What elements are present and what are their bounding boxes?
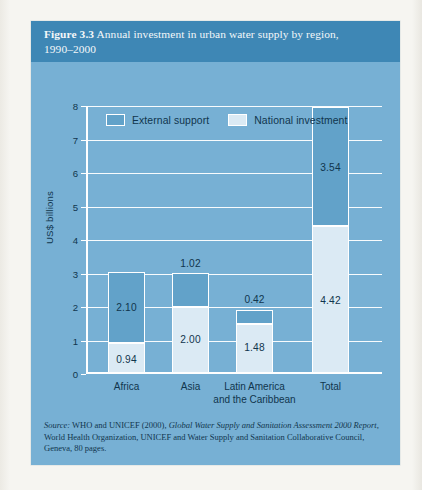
ytick-0: [81, 374, 86, 375]
y-axis-title: US$ billions: [44, 168, 55, 268]
bar-asia[interactable]: 1.02 2.00 Asia: [172, 273, 209, 374]
ytick-label-1: 1: [73, 335, 78, 346]
bar-latin-america-external[interactable]: 0.42: [236, 310, 273, 324]
xtick-label-total: Total: [274, 381, 387, 394]
legend-swatch-external-support-icon: [106, 114, 125, 126]
xtick-label-latin-america-line2: and the Caribbean: [213, 394, 295, 405]
chart-area: US$ billions 8: [31, 62, 400, 412]
bar-total[interactable]: 3.54 4.42 Total: [312, 107, 349, 374]
plot-area: 8 7 6 5 4 3 2 1 0 2.10 0.94 A: [86, 106, 382, 374]
ytick-label-2: 2: [73, 302, 78, 313]
source-note: Source: WHO and UNICEF (2000), Global Wa…: [44, 420, 386, 455]
figure-title-line1: Annual investment in urban water supply …: [96, 28, 338, 40]
value-asia-external: 1.02: [173, 258, 208, 269]
bar-asia-national[interactable]: 2.00: [172, 307, 209, 374]
chart-legend: External support National investment: [106, 114, 347, 126]
figure-title: Figure 3.3 Annual investment in urban wa…: [44, 27, 390, 56]
legend-swatch-national-investment-icon: [228, 114, 247, 126]
ytick-label-6: 6: [73, 168, 78, 179]
figure-panel: Figure 3.3 Annual investment in urban wa…: [31, 21, 400, 465]
value-latin-america-national: 1.48: [237, 342, 272, 353]
source-prefix: Source:: [44, 420, 70, 430]
value-africa-national: 0.94: [109, 353, 144, 364]
source-text-a: WHO and UNICEF (2000),: [70, 420, 169, 430]
x-axis-line: [86, 372, 382, 374]
value-total-national: 4.42: [313, 295, 348, 306]
legend-item-external-support[interactable]: External support: [106, 114, 209, 126]
bar-total-national[interactable]: 4.42: [312, 226, 349, 374]
bar-africa-national[interactable]: 0.94: [108, 343, 145, 375]
value-total-external: 3.54: [313, 161, 348, 172]
ytick-label-5: 5: [73, 201, 78, 212]
legend-label-national-investment: National investment: [254, 115, 347, 126]
ytick-label-3: 3: [73, 268, 78, 279]
ytick-label-7: 7: [73, 134, 78, 145]
value-asia-national: 2.00: [173, 334, 208, 345]
bar-asia-external[interactable]: 1.02: [172, 273, 209, 307]
value-latin-america-external: 0.42: [223, 294, 286, 305]
ytick-label-0: 0: [73, 369, 78, 380]
y-axis-line: [86, 106, 88, 374]
ytick-label-8: 8: [73, 101, 78, 112]
value-africa-external: 2.10: [109, 302, 144, 313]
figure-title-line2: 1990–2000: [44, 43, 96, 55]
figure-number: Figure 3.3: [44, 28, 94, 40]
source-title-italic: Global Water Supply and Sanitation Asses…: [169, 420, 377, 430]
scanned-page: Figure 3.3 Annual investment in urban wa…: [0, 0, 422, 490]
ytick-label-4: 4: [73, 235, 78, 246]
bar-africa-external[interactable]: 2.10: [108, 272, 145, 342]
bar-latin-america[interactable]: 0.42 1.48 Latin America and the Caribbea…: [236, 310, 273, 374]
legend-label-external-support: External support: [132, 115, 209, 126]
legend-item-national-investment[interactable]: National investment: [228, 114, 347, 126]
bar-africa[interactable]: 2.10 0.94 Africa: [108, 272, 145, 374]
bar-latin-america-national[interactable]: 1.48: [236, 324, 273, 374]
figure-title-band: Figure 3.3 Annual investment in urban wa…: [31, 21, 400, 62]
